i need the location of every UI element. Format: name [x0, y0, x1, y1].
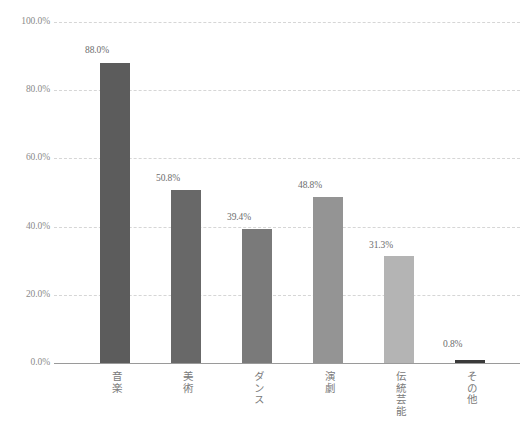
bar-dance	[242, 229, 272, 363]
bar-value-theater: 48.8%	[298, 181, 322, 191]
bar-value-dance: 39.4%	[227, 213, 251, 223]
y-axis-tick-20: 20.0%	[2, 290, 50, 300]
bar-chart: 100.0% 80.0% 60.0% 40.0% 20.0% 0.0% 88.0…	[0, 0, 532, 423]
y-axis-tick-0: 0.0%	[2, 358, 50, 368]
bar-theater	[313, 197, 343, 363]
plot-area	[54, 22, 520, 363]
y-axis-tick-40: 40.0%	[2, 222, 50, 232]
x-axis-line	[54, 363, 520, 364]
x-axis-label-fine-arts: 美術	[181, 371, 193, 394]
x-axis-label-dance: ダンス	[252, 371, 264, 406]
y-axis-tick-80: 80.0%	[2, 85, 50, 95]
x-axis-label-traditional: 伝統芸能	[394, 371, 406, 417]
x-axis-label-other: その他	[465, 371, 477, 406]
x-axis-label-music: 音楽	[110, 371, 122, 394]
bar-fine-arts	[171, 190, 201, 363]
bar-value-music: 88.0%	[85, 46, 109, 56]
bar-music	[100, 63, 130, 363]
bar-traditional	[384, 256, 414, 363]
bar-value-other: 0.8%	[443, 340, 462, 350]
y-axis-tick-60: 60.0%	[2, 153, 50, 163]
y-axis-tick-100: 100.0%	[2, 17, 50, 27]
x-axis-label-theater: 演劇	[323, 371, 335, 394]
bar-value-fine-arts: 50.8%	[156, 174, 180, 184]
bar-value-traditional: 31.3%	[369, 241, 393, 251]
